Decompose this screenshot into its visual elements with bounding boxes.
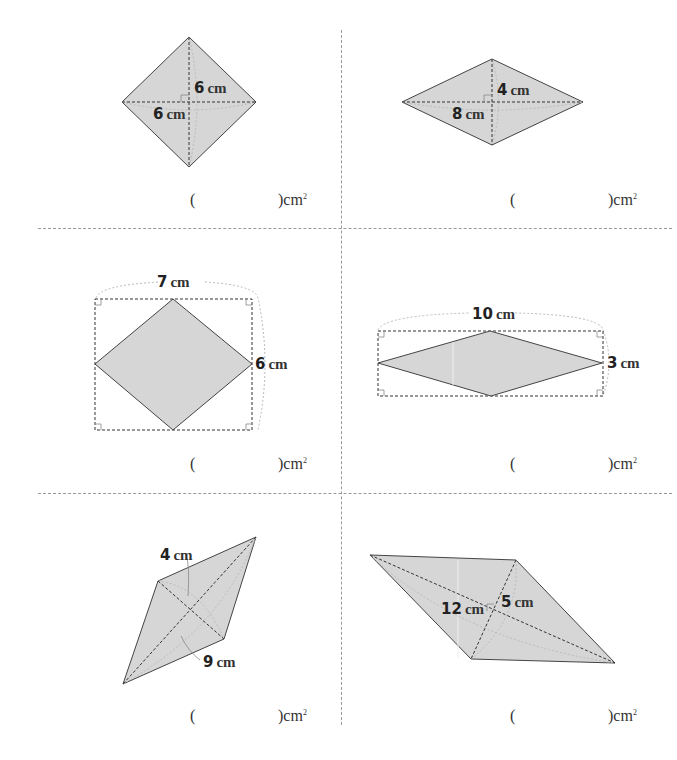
rhombus-4: 10cm 3cm [378,305,640,396]
label-1b: 6cm [153,105,186,123]
rhombus-5: 4cm 9cm [123,537,256,684]
label-1a: 6cm [194,79,227,97]
figures: 6cm 6cm 4cm 8cm 7cm 6cm 10cm 3cm [0,0,677,760]
label-4a: 10cm [472,305,516,323]
label-2a: 4cm [497,81,530,99]
label-4b: 3cm [607,354,640,372]
label-6b: 5cm [501,593,534,611]
label-2b: 8cm [452,105,485,123]
label-5a: 4cm [160,546,193,564]
label-5b: 9cm [203,653,236,671]
rhombus-2: 4cm 8cm [402,59,583,145]
label-3a: 7cm [157,273,190,291]
rhombus-3: 7cm 6cm [95,273,288,430]
label-3b: 6cm [255,355,288,373]
rhombus-1: 6cm 6cm [122,37,256,167]
rhombus-6: 12cm 5cm [370,555,615,663]
